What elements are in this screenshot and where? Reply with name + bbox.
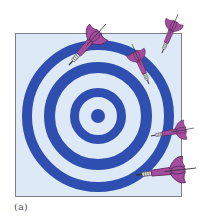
figure-caption: (a) xyxy=(14,201,28,213)
bullseye xyxy=(91,109,105,123)
dartboard-figure xyxy=(0,0,208,220)
